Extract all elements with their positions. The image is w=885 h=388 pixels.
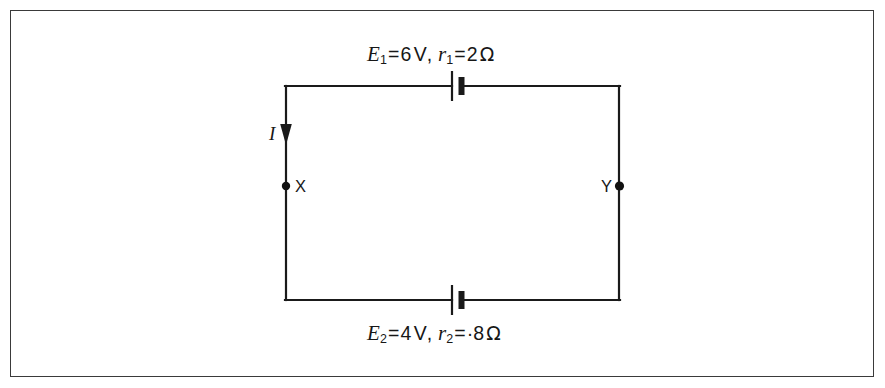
current-label: I [269, 124, 275, 143]
top-emf-unit: V [412, 43, 427, 65]
figure-root: E1=6V, r1=2Ω E2=4V, r2=·8Ω I X Y [0, 0, 885, 388]
node-dot-y [615, 181, 624, 190]
bottom-res-equals: = [453, 322, 467, 344]
bottom-res-symbol: r [438, 321, 446, 345]
top-res-value: 2 [467, 43, 478, 65]
bottom-cell-caption: E2=4V, r2=·8Ω [367, 323, 501, 345]
top-res-equals: = [453, 43, 467, 65]
current-arrow [280, 124, 292, 145]
top-res-symbol: r [438, 42, 446, 66]
top-emf-equals: = [387, 43, 401, 65]
bottom-emf-equals: = [387, 322, 401, 344]
node-label-y: Y [601, 178, 612, 195]
node-label-x: X [295, 178, 306, 195]
bottom-caption-comma: , [427, 322, 433, 344]
top-caption-comma: , [427, 43, 433, 65]
top-emf-value: 6 [401, 43, 412, 65]
battery-symbol-bottom [452, 285, 465, 315]
bottom-emf-symbol: E [367, 321, 380, 345]
top-emf-subscript: 1 [380, 53, 387, 67]
battery-symbol-top [452, 71, 465, 101]
top-cell-caption: E1=6V, r1=2Ω [367, 44, 494, 66]
bottom-emf-subscript: 2 [380, 332, 387, 346]
top-res-unit: Ω [478, 43, 495, 65]
battery-short-plate-top [459, 77, 465, 95]
circuit-wires [285, 86, 620, 300]
battery-short-plate-bottom [459, 291, 465, 309]
top-emf-symbol: E [367, 42, 380, 66]
bottom-emf-value: 4 [401, 322, 412, 344]
current-arrowhead-icon [280, 124, 292, 145]
bottom-res-value: ·8 [467, 322, 484, 344]
bottom-emf-unit: V [412, 322, 427, 344]
node-dot-x [282, 182, 290, 190]
bottom-res-unit: Ω [484, 322, 501, 344]
